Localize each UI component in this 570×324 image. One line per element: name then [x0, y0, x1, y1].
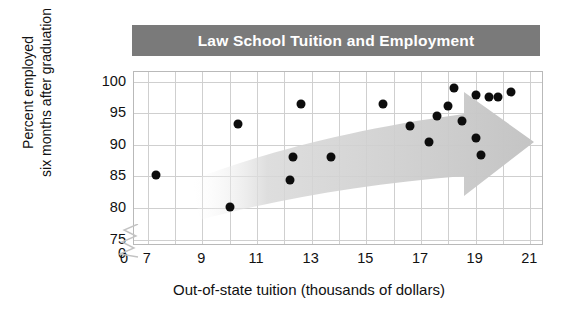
plot-area: [133, 71, 543, 245]
data-point: [458, 116, 467, 125]
y-tick-label: 95: [110, 104, 126, 120]
data-point: [449, 83, 458, 92]
data-point: [493, 92, 502, 101]
data-point: [378, 100, 387, 109]
data-point: [326, 152, 335, 161]
data-point: [225, 202, 234, 211]
x-tick-label: 21: [521, 250, 537, 266]
chart-title: Law School Tuition and Employment: [198, 32, 475, 50]
y-tick-label: 100: [102, 73, 126, 89]
chart-figure: Law School Tuition and Employment 075808…: [0, 0, 570, 324]
chart-title-banner: Law School Tuition and Employment: [132, 25, 540, 56]
data-point: [285, 175, 294, 184]
y-axis-title-line1: Percent employed: [20, 0, 38, 193]
y-axis-title: Percent employed six months after gradua…: [20, 0, 55, 193]
x-tick-label: 13: [303, 250, 319, 266]
x-tick-label: 9: [197, 250, 205, 266]
x-tick-label: 17: [412, 250, 428, 266]
data-point: [288, 152, 297, 161]
x-tick-label: 19: [467, 250, 483, 266]
data-point: [406, 122, 415, 131]
x-axis-title-text: Out-of-state tuition (thousands of dolla…: [125, 281, 445, 298]
data-point: [471, 90, 480, 99]
data-point: [433, 111, 442, 120]
data-point: [444, 101, 453, 110]
x-tick-label: 11: [248, 250, 263, 266]
data-point: [477, 150, 486, 159]
x-tick-label: 15: [357, 250, 373, 266]
data-point: [151, 171, 160, 180]
data-point: [296, 100, 305, 109]
data-point: [425, 138, 434, 147]
x-axis-ticks: 079111315171921: [0, 250, 570, 272]
y-tick-label: 85: [110, 167, 126, 183]
data-point: [471, 134, 480, 143]
axis-break-icon: [116, 224, 158, 258]
y-axis-title-line2: six months after graduation: [37, 0, 55, 193]
data-point: [507, 88, 516, 97]
y-tick-label: 90: [110, 136, 126, 152]
data-point: [233, 119, 242, 128]
y-tick-label: 80: [110, 199, 126, 215]
x-axis-title: Out-of-state tuition (thousands of dolla…: [0, 281, 570, 298]
